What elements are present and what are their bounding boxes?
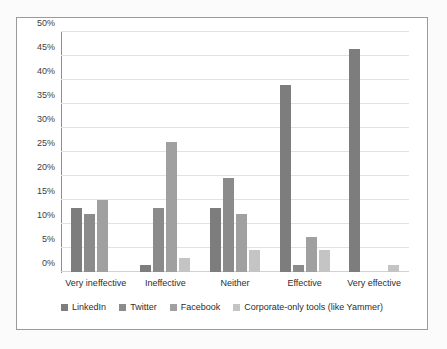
legend-swatch-icon <box>170 304 177 311</box>
chart-legend: LinkedInTwitterFacebookCorporate-only to… <box>17 303 427 312</box>
bar <box>153 208 164 272</box>
x-axis-category-label: Very effective <box>339 279 409 288</box>
bar <box>166 142 177 272</box>
bar <box>306 237 317 272</box>
bar <box>388 265 399 272</box>
y-axis-tick-label: 10% <box>37 211 61 220</box>
y-axis-tick-label: 35% <box>37 91 61 100</box>
x-axis-category-label: Very ineffective <box>61 279 131 288</box>
plot-area: 0%5%10%15%20%25%30%35%40%45%50% Very ine… <box>61 32 409 272</box>
x-axis-category-label: Neither <box>200 279 270 288</box>
bar <box>210 208 221 272</box>
legend-item[interactable]: Twitter <box>119 303 157 312</box>
y-axis-tick-label: 5% <box>42 235 61 244</box>
bar <box>319 250 330 272</box>
bar-group: Effective <box>270 32 340 272</box>
bar-group: Neither <box>200 32 270 272</box>
bar <box>223 178 234 272</box>
bar-group: Very effective <box>339 32 409 272</box>
y-axis-tick-label: 40% <box>37 67 61 76</box>
bar <box>97 200 108 272</box>
y-axis-tick-label: 50% <box>37 19 61 28</box>
chart-page: 0%5%10%15%20%25%30%35%40%45%50% Very ine… <box>0 0 447 349</box>
bar <box>280 85 291 272</box>
legend-item[interactable]: LinkedIn <box>61 303 106 312</box>
legend-swatch-icon <box>119 304 126 311</box>
legend-label: LinkedIn <box>72 303 106 312</box>
x-axis-category-label: Effective <box>270 279 340 288</box>
y-axis-tick-label: 30% <box>37 115 61 124</box>
chart-frame: 0%5%10%15%20%25%30%35%40%45%50% Very ine… <box>16 17 428 330</box>
bar-group: Ineffective <box>131 32 201 272</box>
y-axis-tick-label: 0% <box>42 259 61 268</box>
legend-item[interactable]: Corporate-only tools (like Yammer) <box>233 303 383 312</box>
legend-label: Facebook <box>181 303 221 312</box>
bar <box>84 214 95 272</box>
bar <box>349 49 360 272</box>
legend-label: Corporate-only tools (like Yammer) <box>244 303 383 312</box>
y-axis-tick-label: 45% <box>37 43 61 52</box>
y-axis-tick-label: 15% <box>37 187 61 196</box>
bar <box>140 265 151 272</box>
x-axis-category-label: Ineffective <box>131 279 201 288</box>
legend-item[interactable]: Facebook <box>170 303 221 312</box>
bar <box>236 214 247 272</box>
bar <box>293 265 304 272</box>
legend-swatch-icon <box>233 304 240 311</box>
bar-group: Very ineffective <box>61 32 131 272</box>
bar <box>71 208 82 272</box>
legend-swatch-icon <box>61 304 68 311</box>
legend-label: Twitter <box>130 303 157 312</box>
bar <box>179 258 190 272</box>
bar-groups: Very ineffectiveIneffectiveNeitherEffect… <box>61 32 409 272</box>
y-axis-tick-label: 25% <box>37 139 61 148</box>
bar <box>249 250 260 272</box>
y-axis-tick-label: 20% <box>37 163 61 172</box>
